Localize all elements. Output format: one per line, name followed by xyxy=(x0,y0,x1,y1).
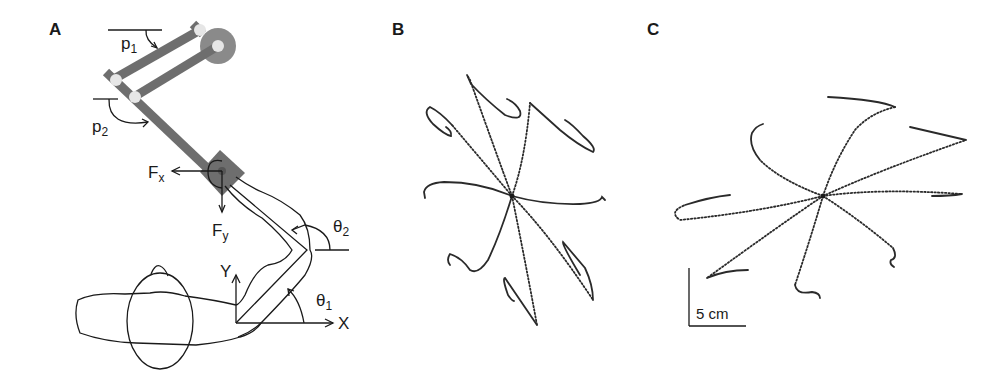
panel-label-c: C xyxy=(647,20,659,39)
svg-text:Y: Y xyxy=(220,262,231,281)
trajectories-c xyxy=(675,97,966,298)
angle-theta1: θ1 xyxy=(288,289,332,323)
svg-text:θ2: θ2 xyxy=(333,217,349,239)
svg-text:θ1: θ1 xyxy=(316,291,332,313)
svg-text:p1: p1 xyxy=(121,34,137,56)
panel-label-a: A xyxy=(49,20,61,39)
panel-c: C xyxy=(647,20,966,326)
panel-b: B xyxy=(392,20,605,325)
panel-label-b: B xyxy=(392,20,404,39)
svg-text:Fy: Fy xyxy=(212,221,228,243)
scale-bar-label: 5 cm xyxy=(696,305,729,322)
svg-text:X: X xyxy=(338,314,349,333)
svg-text:p2: p2 xyxy=(92,117,108,139)
scale-bar: 5 cm xyxy=(689,268,746,326)
svg-text:Fx: Fx xyxy=(148,163,164,185)
arm-outline xyxy=(76,177,312,369)
figure-canvas: A p1 p2 xyxy=(0,0,1005,375)
trajectories-b xyxy=(424,75,605,325)
panel-a: A p1 p2 xyxy=(49,20,349,369)
